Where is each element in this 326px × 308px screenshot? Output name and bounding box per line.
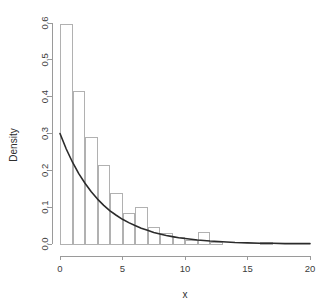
histogram-bar — [148, 228, 160, 244]
histogram-bar — [186, 240, 198, 244]
y-axis-tick-label: 0.2 — [39, 164, 50, 177]
density-curve-group — [60, 134, 310, 244]
y-axis-title: Density — [8, 128, 19, 161]
y-axis: 0.00.10.20.30.40.50.6 — [39, 16, 52, 250]
histogram-figure: 0.00.10.20.30.40.50.6 05101520 Density x — [0, 0, 326, 308]
y-axis-tick-label: 0.5 — [39, 53, 50, 66]
plot-canvas: 0.00.10.20.30.40.50.6 05101520 Density x — [0, 0, 326, 308]
x-axis-tick-label: 15 — [242, 263, 253, 274]
x-axis-tick-label: 10 — [180, 263, 191, 274]
y-axis-tick-label: 0.4 — [39, 90, 50, 103]
histogram-bar — [61, 25, 73, 244]
histogram-bar — [211, 243, 223, 244]
y-axis-tick-label: 0.1 — [39, 201, 50, 214]
y-axis-tick-label: 0.3 — [39, 127, 50, 140]
y-axis-tick-label: 0.0 — [39, 237, 50, 250]
histogram-bar — [198, 233, 210, 244]
y-axis-tick-label: 0.6 — [39, 16, 50, 29]
x-axis: 05101520 — [57, 256, 315, 274]
histogram-bar — [136, 207, 148, 244]
histogram-bars — [61, 25, 273, 244]
x-axis-title: x — [183, 289, 188, 300]
x-axis-tick-label: 0 — [57, 263, 62, 274]
histogram-bar — [123, 213, 135, 244]
x-axis-tick-label: 20 — [305, 263, 316, 274]
x-axis-tick-label: 5 — [120, 263, 125, 274]
exponential-density-curve — [60, 134, 310, 244]
